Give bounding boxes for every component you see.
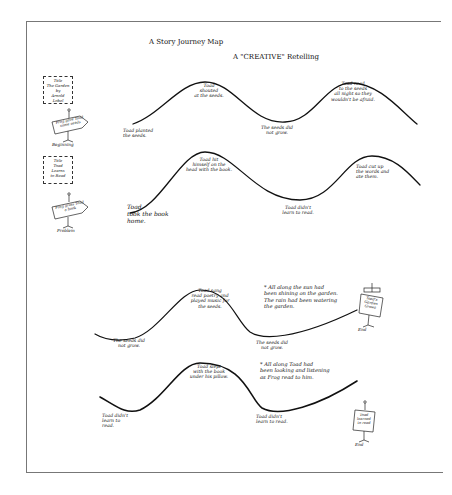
row-4-label-2: Toad slept with the book under his pillo… [184,364,234,380]
problem-caption: Problem [57,228,75,233]
row-3-label-3: The seeds did not grow. [252,340,292,350]
row-3-label-2: Toad sang read poetry and played music f… [188,288,232,309]
story-arcs [0,0,452,495]
row-2-label-4: Toad cut up the words and ate them. [356,164,389,180]
title-card-the-garden: Title The Garden by Arnold Lobel [43,76,73,104]
row-2-label-2: Toad hit himself on the head with the bo… [180,157,238,173]
row-3-end-caption: End [358,327,366,332]
row-1-label-3: The seeds did not grow. [257,125,297,135]
row-3-note: * All along the sun had been shining on … [264,284,338,310]
row-2-label-1: Toad took the book home. [127,203,169,224]
beginning-caption: Beginning [52,142,74,147]
row-3-label-1: The seeds did not grow. [108,338,150,348]
story-arc-row-2 [130,152,420,213]
row-4-end-caption: End [355,442,363,447]
row-1-label-2: Toad shouted at the seeds. [193,83,225,99]
row-4-note: * All along Toad had been looking and li… [260,361,330,380]
row-4-label-1: Toad didn't learn to read. [102,413,128,429]
row-1-label-1: Toad planted the seeds. [123,128,153,138]
title-card-toad-learns-to-read: Title Toad Learns to Read [43,156,73,184]
row-1-label-4: Toad read to the seeds all night so they… [325,81,381,102]
row-2-label-3: Toad didn't learn to read. [280,205,316,215]
row-4-label-3: Toad didn't learn to read. [256,414,288,424]
row-4-end-sign-text: Toad learned to read [354,413,374,426]
